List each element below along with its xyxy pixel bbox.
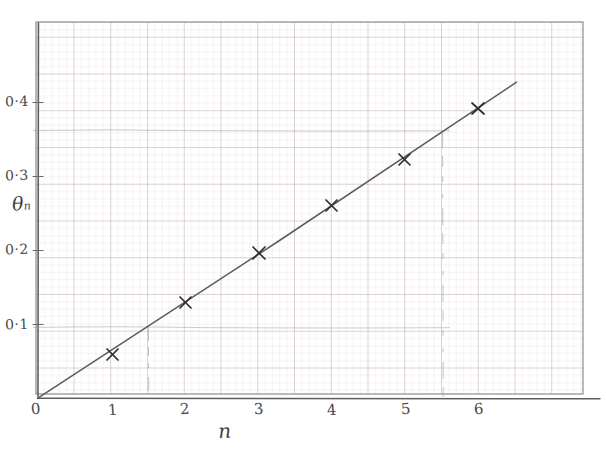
y-tick-label-0-3: 0·3 bbox=[5, 167, 29, 184]
y-axis-title: θn bbox=[11, 191, 31, 214]
x-tick-label-6: 6 bbox=[473, 400, 484, 419]
x-tick-label-4: 4 bbox=[326, 401, 337, 420]
graph-canvas: 0·4 0·3 0·2 0·1 θn 0 1 2 3 4 5 6 n bbox=[0, 0, 606, 454]
x-tick-label-2: 2 bbox=[179, 400, 190, 419]
y-tick-label-0-2: 0·2 bbox=[5, 241, 29, 258]
x-tick-label-0: 0 bbox=[30, 400, 41, 419]
y-tick-label-0-1: 0·1 bbox=[5, 316, 29, 333]
x-tick-label-1: 1 bbox=[107, 401, 118, 420]
y-tick-label-0-4: 0·4 bbox=[5, 93, 29, 110]
y-axis-title-subscript: n bbox=[23, 199, 31, 212]
x-tick-label-5: 5 bbox=[400, 400, 411, 419]
graph-paper-sheet bbox=[36, 22, 583, 394]
x-axis-title: n bbox=[217, 419, 231, 444]
x-tick-label-3: 3 bbox=[253, 400, 264, 419]
hand-drawn-plot bbox=[0, 0, 606, 454]
